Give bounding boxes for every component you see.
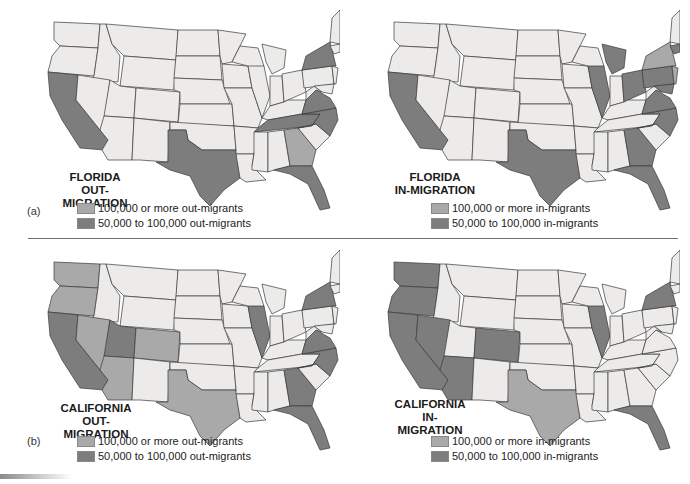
legend-florida-out: 100,000 or more out-migrants 50,000 to 1… — [77, 201, 251, 231]
legend-item-high: 100,000 or more out-migrants — [77, 201, 251, 216]
decorative-fade-bar — [0, 474, 72, 479]
legend-label: 50,000 to 100,000 out-migrants — [98, 449, 251, 464]
state-ms — [592, 372, 608, 412]
state-or — [388, 46, 438, 76]
legend-swatch-mid — [77, 218, 95, 229]
state-ms — [592, 132, 608, 172]
part-label-b: (b) — [27, 435, 40, 447]
map-title-line1: FLORIDA — [390, 171, 480, 184]
legend-item-mid: 50,000 to 100,000 out-migrants — [77, 216, 251, 231]
legend-label: 100,000 or more out-migrants — [98, 434, 243, 449]
map-title: FLORIDA IN-MIGRATION — [390, 171, 480, 197]
legend-item-high: 100,000 or more in-migrants — [431, 434, 598, 449]
legend-item-mid: 50,000 to 100,000 out-migrants — [77, 449, 251, 464]
state-mi — [602, 284, 626, 314]
legend-swatch-high — [431, 203, 449, 214]
map-title-line1: FLORIDA — [50, 171, 140, 184]
state-mi — [262, 284, 286, 314]
legend-item-mid: 50,000 to 100,000 in-migrants — [431, 449, 598, 464]
state-wy — [460, 296, 516, 330]
part-label-a: (a) — [27, 205, 40, 217]
state-mi — [262, 44, 286, 74]
legend-label: 100,000 or more out-migrants — [98, 201, 243, 216]
legend-item-high: 100,000 or more out-migrants — [77, 434, 251, 449]
state-nm — [132, 118, 170, 162]
map-panel-florida-out: FLORIDA OUT-MIGRATION — [40, 0, 370, 230]
state-ia — [222, 304, 252, 328]
state-in — [610, 316, 624, 346]
state-ms — [252, 372, 268, 412]
state-fl — [274, 406, 330, 450]
state-in — [270, 76, 284, 106]
state-ne — [514, 78, 570, 104]
state-ia — [562, 64, 592, 88]
state-sd — [514, 296, 562, 320]
section-divider — [28, 238, 678, 239]
legend-florida-in: 100,000 or more in-migrants 50,000 to 10… — [431, 201, 598, 231]
state-ne-eng — [670, 10, 680, 44]
state-nm — [472, 358, 510, 402]
state-ne — [174, 78, 230, 104]
state-sd — [174, 56, 222, 80]
state-fl — [614, 166, 670, 210]
legend-swatch-mid — [431, 218, 449, 229]
map-title: CALIFORNIA IN-MIGRATION — [390, 398, 470, 437]
state-sd — [514, 56, 562, 80]
state-co — [134, 328, 180, 362]
map-panel-florida-in: FLORIDA IN-MIGRATION — [380, 0, 690, 230]
state-wy — [120, 296, 176, 330]
state-co — [474, 88, 520, 122]
map-title-line2: IN-MIGRATION — [390, 184, 480, 197]
state-ne-eng — [330, 10, 340, 44]
state-nd — [176, 270, 220, 296]
legend-swatch-high — [77, 203, 95, 214]
legend-label: 100,000 or more in-migrants — [452, 201, 590, 216]
state-ne-eng — [670, 250, 680, 284]
legend-item-mid: 50,000 to 100,000 in-migrants — [431, 216, 598, 231]
state-wy — [120, 56, 176, 90]
state-ne-eng — [330, 250, 340, 284]
state-nd — [516, 270, 560, 296]
state-nm — [132, 358, 170, 402]
legend-swatch-high — [431, 436, 449, 447]
state-or — [388, 286, 438, 316]
legend-label: 100,000 or more in-migrants — [452, 434, 590, 449]
state-wa — [54, 262, 100, 288]
state-or — [48, 46, 98, 76]
state-or — [48, 286, 98, 316]
state-nd — [176, 30, 220, 56]
map-title-line1: CALIFORNIA — [50, 402, 142, 415]
state-sd — [174, 296, 222, 320]
map-title-line1: CALIFORNIA — [390, 398, 470, 411]
legend-california-out: 100,000 or more out-migrants 50,000 to 1… — [77, 434, 251, 464]
state-wa — [54, 22, 100, 48]
state-in — [270, 316, 284, 346]
state-ia — [562, 304, 592, 328]
state-nm — [472, 118, 510, 162]
legend-label: 50,000 to 100,000 out-migrants — [98, 216, 251, 231]
legend-label: 50,000 to 100,000 in-migrants — [452, 449, 598, 464]
legend-swatch-high — [77, 436, 95, 447]
legend-swatch-mid — [77, 451, 95, 462]
state-co — [474, 328, 520, 362]
state-wy — [460, 56, 516, 90]
legend-label: 50,000 to 100,000 in-migrants — [452, 216, 598, 231]
state-nd — [516, 30, 560, 56]
state-in — [610, 76, 624, 106]
state-wa — [394, 22, 440, 48]
state-ne — [174, 318, 230, 344]
state-co — [134, 88, 180, 122]
state-fl — [614, 406, 670, 450]
state-ms — [252, 132, 268, 172]
state-ne — [514, 318, 570, 344]
state-wa — [394, 262, 440, 288]
legend-item-high: 100,000 or more in-migrants — [431, 201, 598, 216]
legend-california-in: 100,000 or more in-migrants 50,000 to 10… — [431, 434, 598, 464]
state-fl — [274, 166, 330, 210]
state-mi — [602, 44, 626, 74]
state-ia — [222, 64, 252, 88]
legend-swatch-mid — [431, 451, 449, 462]
